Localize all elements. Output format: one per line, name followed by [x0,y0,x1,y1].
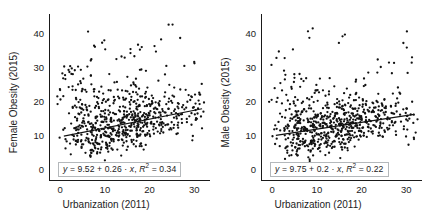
scatter-point [109,111,111,113]
scatter-point [136,133,138,135]
scatter-point [162,131,164,133]
equation-box-right: y = 9.75 + 0.2 · x, R2 = 0.22 [270,162,389,177]
scatter-point [87,113,89,115]
scatter-point [78,124,80,126]
scatter-point [87,140,89,142]
scatter-point [384,131,386,133]
scatter-point [304,133,306,135]
scatter-point [333,146,335,148]
scatter-point [308,107,310,109]
scatter-point [378,105,380,107]
scatter-point [76,118,78,120]
scatter-point [363,77,365,79]
scatter-point [121,139,123,141]
scatter-point [326,111,328,113]
scatter-point [198,103,200,105]
scatter-point [325,142,327,144]
scatter-point [129,103,131,105]
scatter-point [339,157,341,159]
scatter-point [181,122,183,124]
scatter-point [91,139,93,141]
scatter-point [341,35,343,37]
scatter-point [73,127,75,129]
scatter-point [291,149,293,151]
x-tick: 30 [189,184,200,195]
scatter-point [405,107,407,109]
scatter-point [290,86,292,88]
scatter-point [79,106,81,108]
x-tick: 10 [312,184,323,195]
scatter-point [133,100,135,102]
scatter-point [113,140,115,142]
scatter-point [118,126,120,128]
scatter-point [125,127,127,129]
scatter-point [70,122,72,124]
scatter-point [299,86,301,88]
scatter-point [152,97,154,99]
scatter-point [137,123,139,125]
scatter-point [350,112,352,114]
x-tick: 0 [270,184,275,195]
scatter-point [344,33,346,35]
scatter-point [74,105,76,107]
scatter-point [67,69,69,71]
scatter-point [145,70,147,72]
scatter-point [167,123,169,125]
scatter-point [128,93,130,95]
scatter-point [121,117,123,119]
scatter-point [130,139,132,141]
scatter-point [56,103,58,105]
scatter-point [64,147,66,149]
scatter-point [281,102,283,104]
scatter-point [200,115,202,117]
scatter-point [368,106,370,108]
scatter-point [85,125,87,127]
scatter-point [130,111,132,113]
scatter-point [313,101,315,103]
scatter-point [372,132,374,134]
scatter-point [137,112,139,114]
scatter-point [102,99,104,101]
scatter-point [63,65,65,67]
scatter-point [126,111,128,113]
scatter-point [104,48,106,50]
scatter-point [349,94,351,96]
scatter-point [312,137,314,139]
scatter-point [274,143,276,145]
scatter-point [336,128,338,130]
scatter-point [299,113,301,115]
scatter-point [101,102,103,104]
scatter-point [121,89,123,91]
scatter-point [116,81,118,83]
scatter-point [288,130,290,132]
scatter-point [395,130,397,132]
scatter-point [102,110,104,112]
scatter-point [296,138,298,140]
plot-area-right [262,14,422,180]
scatter-point [159,132,161,134]
x-tick: 30 [401,184,412,195]
scatter-point [374,106,376,108]
scatter-point [75,98,77,100]
scatter-point [284,128,286,130]
scatter-point [157,79,159,81]
scatter-point [318,147,320,149]
scatter-point [190,124,192,126]
scatter-point [74,69,76,71]
scatter-point [75,143,77,145]
scatter-point [308,121,310,123]
scatter-point [323,131,325,133]
scatter-point [126,115,128,117]
scatter-point [144,116,146,118]
scatter-point [296,150,298,152]
scatter-point [176,117,178,119]
scatter-point [178,114,180,116]
scatter-point [110,117,112,119]
scatter-point [98,107,100,109]
scatter-point [381,109,383,111]
scatter-point [80,140,82,142]
scatter-point [92,124,94,126]
scatter-point [181,106,183,108]
scatter-point [395,103,397,105]
scatter-point [299,144,301,146]
